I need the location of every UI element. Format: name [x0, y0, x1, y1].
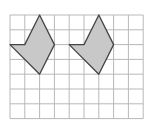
grid-diagram: [0, 0, 145, 124]
left-shape: [10, 15, 54, 74]
right-shape: [69, 15, 113, 74]
grid: [10, 15, 143, 119]
